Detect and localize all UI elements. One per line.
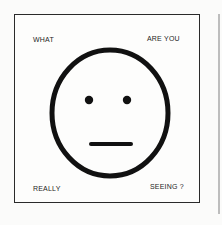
right-eye [123, 96, 131, 104]
left-eye [85, 96, 93, 104]
neutral-face-icon [0, 0, 222, 225]
face-outline [52, 50, 168, 176]
